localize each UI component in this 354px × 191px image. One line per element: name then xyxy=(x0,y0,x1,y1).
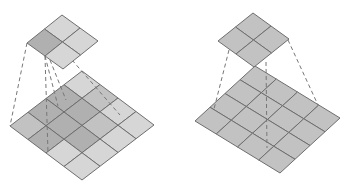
left-input-grid xyxy=(10,71,154,180)
diagram-stage xyxy=(0,0,354,191)
convolution-diagram xyxy=(0,0,354,191)
right-output-grid xyxy=(218,13,289,67)
right-input-grid xyxy=(195,66,340,173)
projection-line xyxy=(10,43,27,126)
left-output-grid xyxy=(27,15,98,69)
